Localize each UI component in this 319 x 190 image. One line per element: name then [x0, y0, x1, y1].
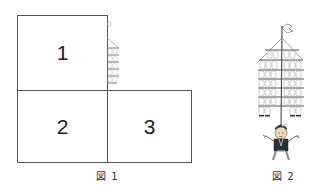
kanto-lantern-pole-edge-icon — [107, 20, 121, 92]
box-1: 1 — [17, 15, 108, 91]
box-2: 2 — [17, 90, 108, 163]
box-3-label: 3 — [144, 115, 156, 139]
box-2-label: 2 — [57, 115, 69, 139]
box-1-label: 1 — [57, 41, 69, 65]
figure-2-caption: 図 2 — [272, 168, 295, 183]
figure-1-caption: 図 1 — [96, 168, 119, 183]
kanto-festival-performer-icon — [255, 20, 307, 162]
box-3: 3 — [107, 90, 192, 163]
